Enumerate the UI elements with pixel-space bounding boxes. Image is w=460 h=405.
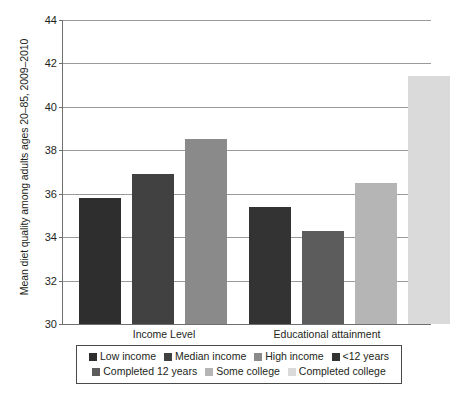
chart-legend: Low incomeMedian incomeHigh income<12 ye…	[76, 345, 402, 384]
y-tick-label: 40	[45, 101, 57, 113]
legend-item[interactable]: High income	[254, 351, 323, 362]
legend-item[interactable]: Completed 12 years	[92, 366, 197, 377]
legend-swatch-icon	[288, 368, 296, 376]
bar	[302, 231, 344, 324]
legend-item[interactable]: Some college	[205, 366, 280, 377]
gridline	[63, 107, 431, 108]
y-tick-mark	[59, 63, 63, 64]
bar	[132, 174, 174, 324]
y-tick-mark	[59, 324, 63, 325]
legend-label: Median income	[175, 351, 246, 362]
y-tick-label: 38	[45, 144, 57, 156]
y-tick-mark	[59, 281, 63, 282]
y-tick-label: 34	[45, 231, 57, 243]
legend-item[interactable]: Median income	[164, 351, 246, 362]
bar	[185, 139, 227, 324]
bar	[355, 183, 397, 324]
legend-swatch-icon	[92, 368, 100, 376]
chart-figure: Mean diet quality among adults ages 20–8…	[0, 0, 460, 405]
bar	[79, 198, 121, 324]
legend-item[interactable]: Low income	[89, 351, 156, 362]
y-tick-mark	[59, 107, 63, 108]
group-label-income-level: Income Level	[133, 328, 195, 340]
y-tick-mark	[59, 20, 63, 21]
y-tick-label: 36	[45, 188, 57, 200]
legend-swatch-icon	[89, 353, 97, 361]
y-tick-mark	[59, 194, 63, 195]
bar	[249, 207, 291, 324]
legend-item[interactable]: <12 years	[332, 351, 389, 362]
group-label-educational-attainment: Educational attainment	[274, 328, 381, 340]
legend-swatch-icon	[164, 353, 172, 361]
y-tick-mark	[59, 237, 63, 238]
legend-label: Completed college	[299, 366, 386, 377]
y-tick-mark	[59, 150, 63, 151]
scan-bleed-artifact	[4, 391, 456, 403]
y-axis-title: Mean diet quality among adults ages 20–8…	[18, 2, 36, 332]
legend-label: Completed 12 years	[103, 366, 197, 377]
y-tick-label: 32	[45, 275, 57, 287]
plot-area: 3032343638404244	[62, 20, 431, 325]
legend-label: Some college	[216, 366, 280, 377]
legend-swatch-icon	[254, 353, 262, 361]
legend-row-1: Low incomeMedian incomeHigh income<12 ye…	[82, 349, 396, 364]
legend-label: <12 years	[343, 351, 389, 362]
y-tick-label: 30	[45, 318, 57, 330]
y-tick-label: 44	[45, 14, 57, 26]
legend-row-2: Completed 12 yearsSome collegeCompleted …	[82, 364, 396, 379]
legend-label: High income	[265, 351, 323, 362]
gridline	[63, 150, 431, 151]
legend-swatch-icon	[205, 368, 213, 376]
y-tick-label: 42	[45, 57, 57, 69]
gridline	[63, 20, 431, 21]
gridline	[63, 63, 431, 64]
legend-label: Low income	[100, 351, 156, 362]
legend-swatch-icon	[332, 353, 340, 361]
legend-item[interactable]: Completed college	[288, 366, 386, 377]
bar	[408, 76, 450, 324]
